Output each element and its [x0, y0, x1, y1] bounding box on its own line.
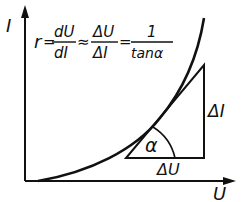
frac1-denominator: dI	[54, 44, 69, 62]
x-axis-label: U	[213, 183, 226, 202]
angle-alpha-label: α	[145, 134, 158, 156]
delta-i-label: ΔI	[206, 101, 225, 121]
frac3-numerator: 1	[147, 23, 157, 41]
tangent-triangle	[126, 65, 204, 158]
frac1-numerator: dU	[54, 23, 75, 41]
frac2-denominator: ΔI	[92, 44, 108, 62]
y-axis	[21, 5, 29, 181]
resistance-formula: r = dU dI ≈ ΔU ΔI = 1 tanα	[34, 23, 173, 62]
y-axis-label: I	[6, 15, 11, 36]
iv-curve-diagram: I U α ΔI ΔU r = dU dI ≈ ΔU ΔI = 1 tanα	[0, 0, 250, 202]
frac2-numerator: ΔU	[92, 23, 114, 41]
frac3-denominator: tanα	[131, 45, 164, 61]
y-axis-arrow-icon	[21, 5, 29, 18]
delta-u-label: ΔU	[155, 160, 180, 179]
formula-equals-2: =	[119, 33, 132, 51]
formula-approx: ≈	[77, 33, 90, 51]
formula-lhs: r	[34, 31, 43, 52]
